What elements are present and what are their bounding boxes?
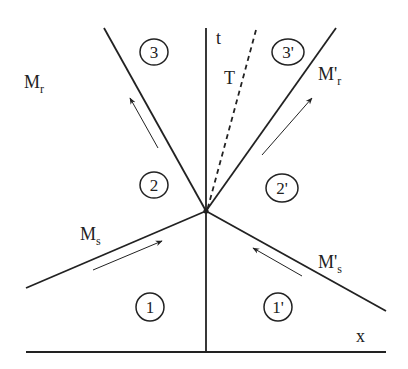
- region-1-label: 1: [146, 298, 155, 317]
- interaction-point: [203, 208, 208, 213]
- transmitted-label: T: [224, 68, 235, 88]
- region-2-label: 2: [150, 176, 159, 195]
- region-3-prime: 3': [272, 39, 304, 65]
- wave-interaction-diagram: t x Mr M'r T Ms M's 3 3' 2 2' 1 1': [0, 0, 408, 369]
- incident-right-sub: s: [337, 262, 342, 276]
- x-axis-label: x: [356, 326, 365, 346]
- arrow-icon-incident-right: [253, 248, 302, 276]
- region-2-prime-label: 2': [276, 179, 288, 198]
- region-1: 1: [136, 293, 164, 321]
- arrow-icon-reflected-left: [130, 98, 158, 148]
- arrow-icon-reflected-right: [262, 98, 312, 155]
- incident-wave-right-line: [206, 211, 386, 311]
- region-1-prime-label: 1': [272, 298, 284, 317]
- region-3: 3: [140, 39, 168, 65]
- reflected-right-main: M': [318, 64, 337, 84]
- incident-right-main: M': [318, 252, 337, 272]
- t-axis-label: t: [216, 28, 221, 48]
- region-2: 2: [140, 172, 168, 198]
- incident-right-label: M's: [318, 252, 342, 276]
- incident-left-sub: s: [96, 234, 101, 248]
- reflected-left-label: Mr: [24, 72, 44, 96]
- reflected-right-label: M'r: [318, 64, 341, 88]
- region-3-label: 3: [150, 43, 159, 62]
- reflected-left-main: M: [24, 72, 40, 92]
- transmitted-contact-line: [207, 30, 256, 211]
- region-2-prime: 2': [266, 174, 298, 202]
- reflected-wave-right-line: [206, 28, 336, 211]
- region-1-prime: 1': [264, 293, 292, 321]
- incident-wave-left-line: [26, 211, 206, 288]
- reflected-right-sub: r: [337, 74, 341, 88]
- region-3-prime-label: 3': [282, 43, 294, 62]
- reflected-left-sub: r: [40, 82, 44, 96]
- incident-left-main: M: [80, 224, 96, 244]
- incident-left-label: Ms: [80, 224, 101, 248]
